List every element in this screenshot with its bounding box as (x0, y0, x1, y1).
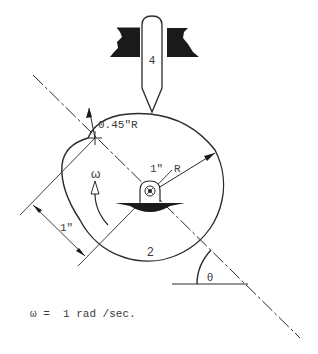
follower-4: 4 (142, 16, 162, 112)
follower-guide-left (110, 28, 140, 57)
angular-velocity-text: ω = 1 rad /sec. (30, 308, 136, 320)
cam-label: 2 (147, 245, 154, 259)
nose-radius-label: 0.45"R (98, 119, 138, 131)
omega-arrow (91, 181, 108, 225)
cam-mechanism-diagram: 4 0.45"R 1" 1" R (0, 0, 318, 354)
base-radius-arrow (155, 153, 215, 190)
follower-label: 4 (149, 54, 155, 66)
base-radius-unit: R (174, 163, 181, 175)
offset-label: 1" (60, 222, 73, 234)
follower-guide-right (167, 28, 199, 57)
omega-label: ω (91, 167, 100, 181)
perpendicular-line-upper (20, 138, 95, 215)
offset-dimension (33, 205, 85, 256)
base-radius-value: 1" (150, 163, 163, 175)
theta-label: θ (207, 271, 213, 283)
cam-pivot (115, 181, 185, 212)
